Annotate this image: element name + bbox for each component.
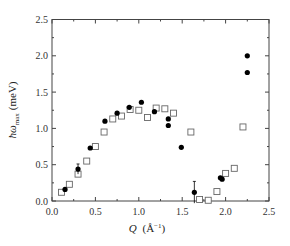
data-point-circle bbox=[102, 119, 107, 124]
data-point-circle bbox=[166, 116, 171, 121]
data-point-circle bbox=[62, 187, 67, 192]
data-point-square bbox=[144, 115, 150, 121]
data-point-square bbox=[231, 165, 237, 171]
data-point-circle bbox=[179, 145, 184, 150]
data-point-circle bbox=[220, 177, 225, 182]
data-point-square bbox=[197, 197, 203, 203]
data-point-square bbox=[92, 144, 98, 150]
data-point-circle bbox=[115, 111, 120, 116]
x-tick-label: 2.0 bbox=[219, 206, 232, 217]
y-tick-label: 1.5 bbox=[36, 87, 49, 98]
plot-border bbox=[52, 20, 269, 202]
y-axis-ticks: 0.00.51.01.52.02.5 bbox=[36, 14, 270, 207]
scatter-chart: 0.00.51.01.52.02.5 0.00.51.01.52.02.5 Q … bbox=[0, 0, 290, 246]
data-point-circle bbox=[152, 109, 157, 114]
data-point-circle bbox=[88, 145, 93, 150]
series-filled-circles bbox=[62, 53, 249, 203]
x-tick-label: 0.0 bbox=[46, 206, 59, 217]
data-point-square bbox=[84, 158, 90, 164]
data-point-square bbox=[162, 106, 168, 112]
data-point-circle bbox=[166, 123, 171, 128]
x-tick-label: 1.0 bbox=[133, 206, 146, 217]
data-point-square bbox=[66, 181, 72, 187]
data-point-square bbox=[101, 129, 107, 135]
y-tick-label: 1.0 bbox=[36, 123, 49, 134]
data-point-square bbox=[136, 107, 142, 113]
x-axis-label: Q (Å−1) bbox=[129, 222, 166, 235]
x-tick-label: 1.5 bbox=[176, 206, 189, 217]
data-point-circle bbox=[245, 70, 250, 75]
data-point-square bbox=[188, 129, 194, 135]
y-tick-label: 2.5 bbox=[36, 14, 49, 25]
data-point-circle bbox=[75, 166, 80, 171]
data-point-circle bbox=[245, 53, 250, 58]
data-point-square bbox=[214, 189, 220, 195]
y-tick-label: 0.0 bbox=[36, 196, 49, 207]
y-tick-label: 0.5 bbox=[36, 159, 49, 170]
data-point-square bbox=[223, 170, 229, 176]
plot-frame bbox=[52, 20, 269, 202]
data-point-circle bbox=[127, 105, 132, 110]
x-tick-label: 0.5 bbox=[89, 206, 102, 217]
series-open-squares bbox=[59, 105, 246, 203]
y-tick-label: 2.0 bbox=[36, 50, 49, 61]
data-point-circle bbox=[139, 100, 144, 105]
data-point-square bbox=[171, 110, 177, 116]
data-point-square bbox=[110, 116, 116, 122]
data-point-square bbox=[205, 197, 211, 203]
data-point-square bbox=[240, 124, 246, 130]
x-tick-label: 2.5 bbox=[263, 206, 276, 217]
y-axis-label: ħωmax(meV) bbox=[6, 81, 21, 138]
x-axis-ticks: 0.00.51.01.52.02.5 bbox=[46, 20, 276, 218]
data-point-circle bbox=[192, 190, 197, 195]
